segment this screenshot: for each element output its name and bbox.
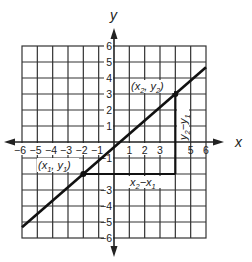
svg-text:−4: −4: [45, 144, 57, 156]
y-axis-label: y: [109, 7, 118, 23]
svg-text:2: 2: [142, 144, 148, 156]
svg-text:−6: −6: [14, 144, 26, 156]
svg-text:6: 6: [106, 40, 112, 52]
svg-text:−3: −3: [100, 184, 112, 196]
x-axis-right-arrow: [213, 139, 224, 146]
svg-text:1: 1: [106, 120, 112, 132]
svg-text:−6: −6: [100, 232, 112, 244]
svg-text:3: 3: [157, 144, 163, 156]
svg-text:1: 1: [126, 144, 132, 156]
svg-text:2: 2: [106, 104, 112, 116]
svg-text:−5: −5: [30, 144, 42, 156]
svg-text:5: 5: [188, 144, 194, 156]
y-axis-up-arrow: [111, 28, 118, 39]
svg-text:−5: −5: [100, 216, 112, 228]
point-x1-y1: [80, 171, 86, 177]
svg-text:−3: −3: [60, 144, 72, 156]
x-axis-label: x: [234, 134, 243, 150]
svg-text:−2: −2: [76, 144, 88, 156]
y-axis-down-arrow: [111, 246, 118, 257]
coordinate-plane: x y −6 −5 −4 −3 −2 −1 1 2 3 5 6 6 5 4 3 …: [0, 0, 252, 262]
svg-text:5: 5: [106, 56, 112, 68]
svg-text:6: 6: [203, 144, 209, 156]
svg-text:−4: −4: [100, 200, 112, 212]
svg-text:3: 3: [106, 88, 112, 100]
svg-text:4: 4: [106, 72, 112, 84]
